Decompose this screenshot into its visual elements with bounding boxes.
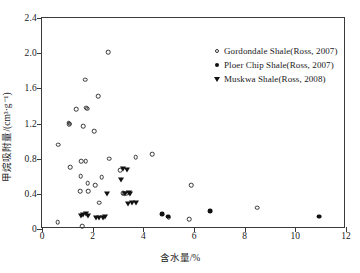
data-point-series-0 [255,206,260,211]
scatter-chart: 甲烷吸附量/(cm³·g⁻¹) 00.40.81.21.62.02.4 0246… [0,0,360,273]
x-tick-label: 4 [141,231,146,241]
data-point-series-0 [81,124,86,129]
data-point-series-0 [107,156,112,161]
legend-item-label: Gordondale Shale(Ross, 2007) [224,46,338,56]
open-circle-icon [210,49,224,54]
data-point-series-0 [189,183,194,188]
data-point-series-2 [93,215,99,220]
data-point-series-0 [133,155,138,160]
data-point-series-1 [166,214,171,219]
x-tick-label: 6 [192,231,197,241]
y-tick-mark [37,159,42,160]
legend-item-label: Ploer Chip Shale(Ross, 2007) [224,60,334,70]
data-point-series-0 [85,106,90,111]
y-tick-label: 0.8 [25,154,37,164]
data-point-series-0 [118,168,123,173]
data-point-series-0 [79,159,84,164]
data-point-series-0 [68,165,73,170]
data-point-series-2 [104,191,110,196]
y-axis-title: 甲烷吸附量/(cm³·g⁻¹) [0,0,14,273]
x-tick-label: 10 [291,231,301,241]
x-axis-title-text: 含水量/% [160,253,201,263]
filled-triangle-down-icon [210,77,224,82]
y-tick-label: 2.0 [25,48,37,58]
data-point-series-0 [74,107,79,112]
data-point-series-0 [97,200,102,205]
chart-legend: Gordondale Shale(Ross, 2007)Ploer Chip S… [210,44,338,86]
data-point-series-0 [68,121,73,126]
data-point-series-0 [85,181,90,186]
filled-circle-icon [210,63,224,68]
data-point-series-0 [187,217,192,222]
data-point-series-2 [80,212,86,217]
legend-item-2[interactable]: Muskwa Shale(Ross, 2008) [210,72,338,86]
data-point-series-0 [125,191,130,196]
data-point-series-0 [83,159,88,164]
data-point-series-0 [55,220,60,225]
legend-item-1[interactable]: Ploer Chip Shale(Ross, 2007) [210,58,338,72]
data-point-series-0 [83,77,88,82]
data-point-series-2 [78,213,84,218]
data-point-series-0 [80,224,85,229]
data-point-series-0 [84,105,89,110]
x-tick-label: 0 [40,231,45,241]
data-point-series-1 [160,212,165,217]
y-tick-label: 1.2 [25,119,37,129]
data-point-series-2 [129,200,135,205]
data-point-series-0 [78,174,83,179]
data-point-series-0 [86,189,91,194]
y-tick-label: 1.6 [25,83,37,93]
y-tick-label: 0.4 [25,189,37,199]
data-point-series-2 [96,216,102,221]
data-point-series-2 [120,167,126,172]
data-point-series-2 [118,177,124,182]
legend-item-0[interactable]: Gordondale Shale(Ross, 2007) [210,44,338,58]
x-axis-title: 含水量/% [0,250,360,264]
data-point-series-2 [127,191,133,196]
legend-item-label: Muskwa Shale(Ross, 2008) [224,74,326,84]
data-point-series-2 [126,190,132,195]
data-point-series-0 [92,129,97,134]
data-point-series-2 [125,201,131,206]
data-point-series-0 [93,183,98,188]
y-tick-mark [37,88,42,89]
x-tick-label: 2 [90,231,95,241]
data-point-series-2 [85,213,91,218]
y-tick-mark [37,194,42,195]
data-point-series-2 [83,212,89,217]
x-tick-label: 12 [341,231,351,241]
data-point-series-2 [133,200,139,205]
data-point-series-0 [106,50,111,55]
x-tick-label: 8 [242,231,247,241]
data-point-series-2 [124,168,130,173]
data-point-series-0 [121,191,126,196]
data-point-series-0 [78,189,83,194]
y-tick-mark [37,124,42,125]
y-tick-label: 2.4 [25,13,37,23]
data-point-series-0 [66,120,71,125]
y-tick-label: 0 [32,224,37,234]
data-point-series-0 [150,152,155,157]
data-point-series-0 [67,122,72,127]
plot-area: 00.40.81.21.62.02.4 024681012 Gordondale… [41,17,345,228]
data-point-series-2 [100,216,106,221]
data-point-series-0 [166,215,171,220]
y-tick-mark [37,53,42,54]
data-point-series-0 [56,142,61,147]
y-axis-title-text: 甲烷吸附量/(cm³·g⁻¹) [0,92,13,181]
data-point-series-2 [122,191,128,196]
data-point-series-2 [102,214,108,219]
data-point-series-1 [208,209,213,214]
data-point-series-0 [120,191,125,196]
data-point-series-0 [99,175,104,180]
data-point-series-0 [96,94,101,99]
data-point-series-1 [317,214,322,219]
y-tick-mark [37,18,42,19]
